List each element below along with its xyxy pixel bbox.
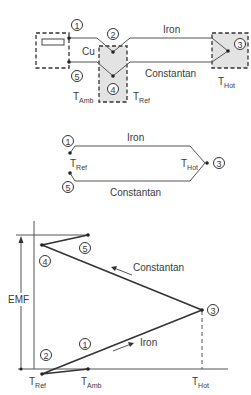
node-marker-1: 1 <box>80 339 91 350</box>
svg-text:2: 2 <box>43 351 48 361</box>
constantan-label: Constantan <box>110 187 161 198</box>
junction-dot-4 <box>111 74 115 78</box>
svg-text:3: 3 <box>237 40 242 50</box>
node-marker-5: 5 <box>80 243 91 254</box>
junction-dot-3 <box>205 161 209 165</box>
x-tick-t-hot: THot <box>192 376 209 389</box>
node-marker-4: 4 <box>108 84 119 95</box>
svg-text:4: 4 <box>110 85 115 95</box>
constantan-label: Constantan <box>133 262 184 273</box>
point-4 <box>40 243 44 247</box>
x-tick-t-ref: TRef <box>29 376 46 389</box>
t-hot-label: THot <box>181 158 198 171</box>
node-marker-3: 3 <box>214 158 225 169</box>
meter-box <box>36 33 69 68</box>
emf-label: EMF <box>8 294 29 305</box>
constantan-label: Constantan <box>145 68 196 79</box>
emf-graph: EMF 1 2 3 4 5 <box>6 221 228 389</box>
iron-label: Iron <box>127 132 144 143</box>
t-amb-label: TAmb <box>73 91 94 104</box>
t-hot-label: THot <box>218 76 235 89</box>
x-tick-t-amb: TAmb <box>81 376 102 389</box>
svg-text:1: 1 <box>65 137 70 147</box>
iron-label: Iron <box>140 337 157 348</box>
svg-text:4: 4 <box>42 257 47 267</box>
emf-arrow-base-dot <box>19 367 22 370</box>
t-ref-label: TRef <box>133 91 150 104</box>
constantan-direction-arrow <box>114 268 132 275</box>
node-marker-3: 3 <box>235 39 246 50</box>
svg-text:2: 2 <box>110 30 115 40</box>
node-marker-1: 1 <box>72 20 83 31</box>
hot-zone <box>212 33 248 68</box>
node-marker-1: 1 <box>63 136 74 147</box>
node-marker-4: 4 <box>40 256 51 267</box>
t-ref-label: TRef <box>70 158 87 171</box>
node-marker-2: 2 <box>108 29 119 40</box>
point-hot <box>200 308 204 312</box>
svg-text:5: 5 <box>74 72 79 82</box>
junction-dot-3 <box>226 49 230 53</box>
junction-dot-2 <box>111 50 115 54</box>
svg-text:3: 3 <box>216 159 221 169</box>
svg-text:5: 5 <box>65 183 70 193</box>
point-ref <box>40 372 44 376</box>
point-5 <box>86 233 90 237</box>
point-amb <box>86 367 90 371</box>
iron-label: Iron <box>163 24 180 35</box>
svg-text:1: 1 <box>82 340 87 350</box>
simplified-diagram: 1 3 5 Iron Constantan TRef THot <box>63 132 225 198</box>
svg-text:3: 3 <box>210 306 215 316</box>
emf-trace <box>42 235 202 374</box>
meter-display-icon <box>42 39 64 45</box>
copper-label: Cu <box>82 46 95 57</box>
junction-dot-1 <box>67 36 71 40</box>
node-marker-2: 2 <box>41 350 52 361</box>
junction-dot-1 <box>68 151 72 155</box>
node-marker-5: 5 <box>72 71 83 82</box>
node-marker-5: 5 <box>63 182 74 193</box>
svg-text:5: 5 <box>82 244 87 254</box>
thermocouple-figure: 1 2 3 4 5 Cu Iron Constantan TAmb TRef T… <box>0 0 251 395</box>
junction-dot-5 <box>68 171 72 175</box>
junction-dot-5 <box>67 60 71 64</box>
svg-text:1: 1 <box>74 21 79 31</box>
circuit-diagram: 1 2 3 4 5 Cu Iron Constantan TAmb TRef T… <box>36 20 248 105</box>
node-marker-3: 3 <box>208 305 219 316</box>
emf-arrow-head <box>19 236 24 243</box>
